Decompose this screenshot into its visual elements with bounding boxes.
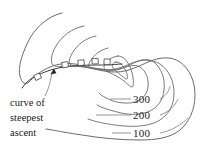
contour-map-figure: 300 200 100 curve of steepest ascent (0, 0, 213, 153)
annotation-line-3: ascent (10, 127, 36, 138)
annotation-leader-line (45, 73, 52, 96)
contour-label-200: 200 (133, 109, 150, 121)
contour-label-100: 100 (133, 127, 150, 139)
contour-line-200 (51, 26, 174, 126)
annotation-line-1: curve of (10, 97, 45, 108)
label-leader-200-right (160, 99, 178, 115)
contour-label-300: 300 (133, 93, 150, 105)
right-angle-marker-4 (92, 58, 98, 64)
contour-map-svg: 300 200 100 curve of steepest ascent (0, 0, 213, 153)
right-angle-marker-3 (78, 60, 85, 66)
annotation-line-2: steepest (10, 112, 43, 123)
right-angle-marker-5 (104, 59, 110, 65)
contour-line-100 (19, 13, 195, 140)
right-angle-marker-2 (62, 62, 69, 68)
label-leader-300-right (160, 86, 170, 99)
